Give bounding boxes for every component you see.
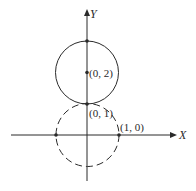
point-0-3 <box>85 39 89 43</box>
y-axis-label: Y <box>90 7 98 21</box>
x-axis-label: X <box>178 128 187 142</box>
point-0-1 <box>85 102 89 106</box>
diagram-canvas: X Y (0, 2) (0, 1) (1, 0) <box>0 0 196 191</box>
point-neg1-0 <box>54 133 58 137</box>
x-axis-arrow-icon <box>170 132 177 138</box>
label-1-0: (1, 0) <box>120 121 144 134</box>
label-0-2: (0, 2) <box>89 67 113 80</box>
point-1-0 <box>117 133 121 137</box>
label-0-1: (0, 1) <box>89 107 113 120</box>
